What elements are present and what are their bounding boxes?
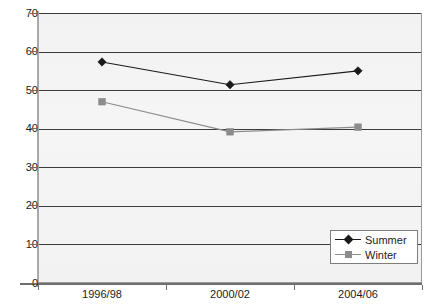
y-tick-mark — [30, 51, 37, 52]
legend-swatch-winter — [331, 248, 365, 262]
x-tick-label-1: 2000/02 — [210, 288, 250, 300]
y-tick-30: 30 — [0, 162, 38, 173]
y-tick-mark — [30, 244, 37, 245]
y-tick-50: 50 — [0, 85, 38, 96]
legend-entry-winter: Winter — [331, 247, 417, 263]
y-tick-mark — [30, 167, 37, 168]
y-tick-70: 70 — [0, 8, 38, 19]
legend-swatch-summer — [331, 233, 365, 247]
x-tick-mark-0 — [38, 285, 39, 290]
x-tick-label-2: 2004/06 — [338, 288, 378, 300]
y-tick-20: 20 — [0, 200, 38, 211]
x-tick-label-0: 1996/98 — [82, 288, 122, 300]
y-tick-mark — [30, 13, 37, 14]
legend[interactable]: Summer Winter — [330, 230, 418, 264]
legend-label-summer: Summer — [365, 234, 407, 246]
y-tick-mark — [30, 128, 37, 129]
gridline-70 — [39, 13, 421, 14]
legend-entry-summer: Summer — [331, 232, 417, 248]
gridline-30 — [39, 167, 421, 168]
gridline-20 — [39, 206, 421, 207]
gridline-40 — [39, 129, 421, 130]
chart-title-cropped — [300, 0, 360, 5]
x-tick-mark-1 — [166, 285, 167, 290]
y-tick-10: 10 — [0, 239, 38, 250]
diamond-marker-icon — [344, 235, 354, 245]
gridline-50 — [39, 90, 421, 91]
y-tick-mark — [30, 90, 37, 91]
line-chart: 010203040506070 1996/982000/022004/06 Su… — [0, 0, 433, 308]
gridline-60 — [39, 52, 421, 53]
x-tick-mark-3 — [422, 285, 423, 290]
y-tick-40: 40 — [0, 123, 38, 134]
y-tick-mark — [30, 283, 37, 284]
y-tick-60: 60 — [0, 46, 38, 57]
legend-label-winter: Winter — [365, 249, 397, 261]
square-marker-icon — [345, 251, 352, 258]
x-axis-line — [20, 283, 422, 285]
x-tick-mark-2 — [294, 285, 295, 290]
y-tick-0: 0 — [0, 278, 38, 289]
y-tick-mark — [30, 205, 37, 206]
